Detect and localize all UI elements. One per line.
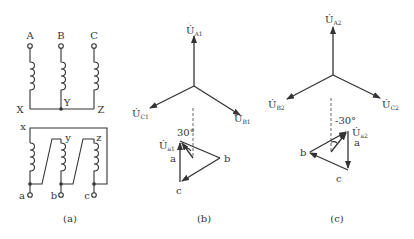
angle-label-c: -30°: [335, 115, 356, 126]
transformer-connection-diagram: A B C X Y Z: [0, 0, 414, 239]
label-UB2: U̇B2: [268, 99, 285, 111]
node-c-icon: [92, 182, 96, 186]
node-b-icon: [59, 182, 63, 186]
panel-a-winding-diagram: A B C X Y Z: [16, 30, 107, 224]
terminal-label-b: b: [51, 190, 57, 201]
label-UC1: U̇C1: [132, 108, 149, 120]
terminal-a-icon: [28, 193, 33, 198]
winding-label-y: y: [64, 132, 71, 143]
label-UC2: U̇C2: [382, 99, 399, 111]
phasor-UC2: [333, 75, 380, 98]
vertex-label-a: a: [170, 153, 176, 164]
primary-winding-A: [30, 48, 35, 109]
terminal-A-icon: [28, 44, 33, 49]
label-Ua1: U̇a1: [159, 140, 175, 152]
phasor-UB2: [287, 75, 333, 99]
winding-label-z: z: [96, 132, 101, 143]
vertex-label-c: c: [336, 173, 342, 184]
dot-UA1-icon: ·: [188, 19, 190, 26]
terminal-label-B: B: [57, 30, 64, 41]
neutral-node-icon: [59, 107, 63, 111]
end-label-X: X: [16, 104, 24, 115]
triangle-edge-bc: [182, 158, 220, 181]
vertex-label-b: b: [300, 147, 306, 158]
vertex-label-c: c: [176, 185, 182, 196]
angle-arc: [331, 142, 337, 143]
panel-c-phasor-diagram: U̇A2 U̇B2 U̇C2 -30° U̇a2 a b c (c): [268, 14, 399, 224]
node-a-icon: [28, 182, 32, 186]
triangle-edge-cb: [310, 153, 348, 170]
caption-c: (c): [330, 213, 344, 224]
primary-winding-C: [94, 48, 99, 109]
terminal-c-icon: [92, 193, 97, 198]
end-label-Z: Z: [98, 104, 105, 115]
terminal-B-icon: [59, 44, 64, 49]
vertex-label-b: b: [224, 153, 230, 164]
terminal-label-C: C: [90, 30, 98, 41]
terminal-label-c: c: [84, 190, 90, 201]
panel-b-phasor-diagram: U̇A1 · U̇C1 U̇B1 30° U̇a1 a b c (b): [132, 19, 251, 224]
phasor-UC1: [150, 86, 194, 108]
winding-label-x: x: [20, 121, 26, 132]
triangle-edge-ba: [310, 132, 346, 152]
caption-b: (b): [197, 213, 211, 224]
label-UA1: U̇A1: [186, 25, 203, 37]
terminal-b-icon: [59, 193, 64, 198]
terminal-C-icon: [92, 44, 97, 49]
terminal-label-A: A: [25, 30, 34, 41]
caption-a: (a): [63, 213, 77, 224]
vertex-label-a: a: [354, 137, 360, 148]
end-label-Y: Y: [63, 97, 71, 108]
angle-label-b: 30°: [177, 127, 195, 138]
label-UB1: U̇B1: [234, 113, 251, 125]
phasor-UB1: [194, 86, 240, 115]
label-UA2: U̇A2: [325, 14, 342, 26]
terminal-label-a: a: [19, 190, 25, 201]
